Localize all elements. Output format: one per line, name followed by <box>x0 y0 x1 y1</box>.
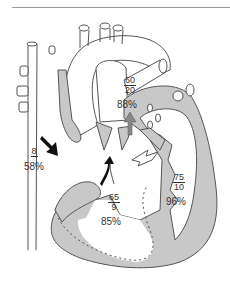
right-ventricle-label: 65 9 85% <box>107 193 121 227</box>
right-atrium-label: 8 58% <box>24 146 44 172</box>
rv-arrow-icon <box>100 156 114 186</box>
pulmonary-artery-label: 60 20 88% <box>123 76 137 110</box>
white-arrow-icon <box>132 150 158 166</box>
left-ventricle-saturation: 96% <box>166 197 186 207</box>
heart-illustration <box>0 0 230 282</box>
right-atrium-saturation: 58% <box>24 162 44 172</box>
left-ventricle-label: 75 10 96% <box>172 173 186 207</box>
pulmonary-artery-saturation: 88% <box>117 100 137 110</box>
left-ventricle-pressure: 75 10 <box>173 173 185 192</box>
right-ventricle-pressure: 65 9 <box>108 193 120 212</box>
right-atrium-pressure: 8 <box>31 147 38 157</box>
pulmonary-artery-pressure: 60 20 <box>124 76 136 95</box>
right-ventricle-saturation: 85% <box>101 217 121 227</box>
